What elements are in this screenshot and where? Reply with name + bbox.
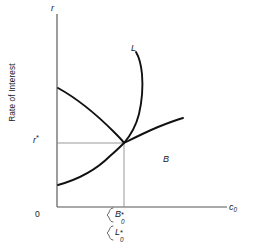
curve-label-lending: L — [131, 44, 136, 53]
brace-upper-subscript: 0 — [121, 219, 125, 225]
brace-upper-asterisk: * — [121, 211, 124, 219]
curve-label-borrowing: B — [163, 155, 169, 164]
equilibrium-rate-label: r* — [33, 136, 39, 145]
x-axis-symbol-label: c0 — [229, 203, 237, 212]
brace-lower-subscript: 0 — [120, 237, 124, 243]
brace-upper — [107, 208, 113, 222]
brace-lower-asterisk: * — [120, 229, 123, 237]
origin-label: 0 — [35, 210, 40, 219]
equilibrium-rate-asterisk: * — [36, 133, 39, 142]
x-axis-symbol-base: c — [229, 202, 234, 212]
y-axis-symbol-label: r — [51, 4, 54, 13]
brace-label-lower: L*0 — [115, 228, 124, 237]
curve-B-borrowing — [58, 118, 183, 185]
brace-label-upper: B*0 — [115, 210, 125, 219]
x-axis-symbol-subscript: 0 — [234, 206, 238, 213]
y-axis-title: Rate of Interest — [8, 48, 17, 138]
economics-diagram: Rate of Interest r c0 0 r* L B B*0 L*0 — [0, 0, 256, 252]
curve-L-lending — [58, 52, 142, 143]
brace-lower — [107, 226, 113, 240]
